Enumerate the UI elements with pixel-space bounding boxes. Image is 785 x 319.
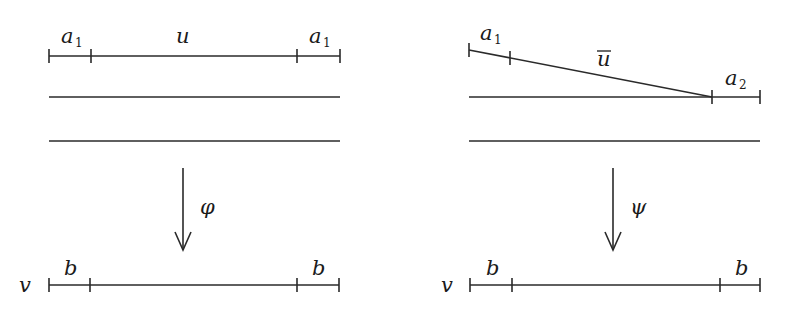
label-a1-subscript: 1: [494, 33, 502, 47]
label-b-left: b: [64, 256, 77, 280]
label-a1-right-subscript: 1: [323, 36, 331, 50]
label-a2-subscript: 2: [739, 78, 747, 92]
right-slanted-segment: a 1 u: [469, 21, 712, 97]
label-b-left: b: [486, 256, 499, 280]
label-a1: a: [480, 21, 493, 45]
label-b-right: b: [735, 256, 748, 280]
right-bottom-segment: v b b: [441, 256, 760, 297]
left-top-segment: a 1 u a 1: [49, 24, 340, 63]
right-arrow-down: ψ: [605, 168, 647, 250]
label-phi: φ: [200, 195, 215, 219]
right-line-2: a 2: [469, 66, 760, 104]
label-a1-right: a: [309, 24, 322, 48]
label-a1-left-subscript: 1: [75, 36, 83, 50]
left-arrow-down: φ: [175, 168, 215, 250]
label-a1-left: a: [61, 24, 74, 48]
label-psi: ψ: [630, 195, 647, 219]
label-v-right: v: [441, 273, 453, 297]
label-v-left: v: [19, 273, 31, 297]
label-u: u: [176, 24, 190, 48]
left-bottom-segment: v b b: [19, 256, 339, 297]
label-a2: a: [725, 66, 738, 90]
left-panel: a 1 u a 1 φ v b b: [19, 24, 340, 297]
diagram-canvas: a 1 u a 1 φ v b b: [0, 0, 785, 319]
label-b-right: b: [312, 256, 325, 280]
right-panel: a 1 u a 2 ψ v b b: [441, 21, 760, 297]
